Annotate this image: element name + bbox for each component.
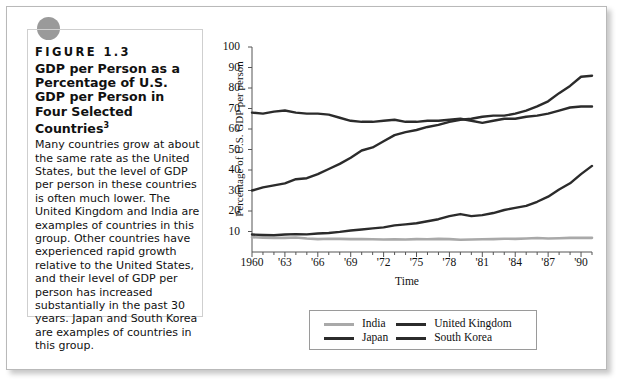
- y-axis-ticks: 100908070605040302010: [212, 37, 240, 252]
- y-tick-label: 90: [214, 61, 240, 73]
- legend-swatch-south-korea: [392, 330, 430, 344]
- y-tick-label: 50: [214, 143, 240, 155]
- y-tick-label: 70: [214, 102, 240, 114]
- legend-table: IndiaUnited KingdomJapanSouth Korea: [320, 316, 516, 344]
- x-tick-label: '72: [377, 256, 391, 268]
- figure-description: Many countries grow at about the same ra…: [35, 138, 200, 353]
- legend-label-india: India: [358, 316, 392, 330]
- y-tick-label: 30: [214, 184, 240, 196]
- legend-swatch-united-kingdom: [392, 316, 430, 330]
- figure-number: FIGURE 1.3: [35, 45, 200, 59]
- legend-row: JapanSouth Korea: [320, 330, 516, 344]
- x-tick-label: '81: [476, 256, 490, 268]
- series-svg: [252, 47, 592, 252]
- y-tick-label: 40: [214, 163, 240, 175]
- chart-area: Percentage of U.S. GDP per person 100908…: [212, 37, 602, 297]
- legend-swatch-japan: [320, 330, 358, 344]
- plot-lines: [252, 47, 592, 252]
- series-line-india: [252, 237, 592, 239]
- x-tick-label: 1960: [241, 256, 264, 268]
- figure-title: GDP per Person as a Percentage of U.S. G…: [35, 62, 200, 136]
- x-tick-label: '63: [278, 256, 292, 268]
- x-tick-label: '78: [443, 256, 457, 268]
- caption-block: FIGURE 1.3 GDP per Person as a Percentag…: [35, 45, 200, 353]
- legend-label-japan: Japan: [358, 330, 392, 344]
- x-tick-label: '87: [541, 256, 555, 268]
- figure-panel: FIGURE 1.3 GDP per Person as a Percentag…: [6, 6, 607, 370]
- x-tick-label: '90: [574, 256, 588, 268]
- legend-row: IndiaUnited Kingdom: [320, 316, 516, 330]
- y-tick-label: 10: [214, 225, 240, 237]
- series-line-south-korea: [252, 166, 592, 235]
- x-axis-label: Time: [212, 275, 602, 287]
- legend-label-south-korea: South Korea: [430, 330, 516, 344]
- series-line-japan: [252, 76, 592, 191]
- x-tick-label: '75: [410, 256, 424, 268]
- x-tick-label: '66: [311, 256, 325, 268]
- series-line-united-kingdom: [252, 106, 592, 122]
- y-tick-label: 60: [214, 122, 240, 134]
- x-tick-label: '84: [508, 256, 522, 268]
- y-tick-label: 100: [214, 40, 240, 52]
- x-tick-label: '69: [344, 256, 358, 268]
- legend-label-united-kingdom: United Kingdom: [430, 316, 516, 330]
- legend-box: IndiaUnited KingdomJapanSouth Korea: [309, 310, 537, 350]
- figure-title-footnote-marker: 3: [103, 121, 109, 130]
- y-tick-label: 20: [214, 204, 240, 216]
- legend-swatch-india: [320, 316, 358, 330]
- y-tick-label: 80: [214, 81, 240, 93]
